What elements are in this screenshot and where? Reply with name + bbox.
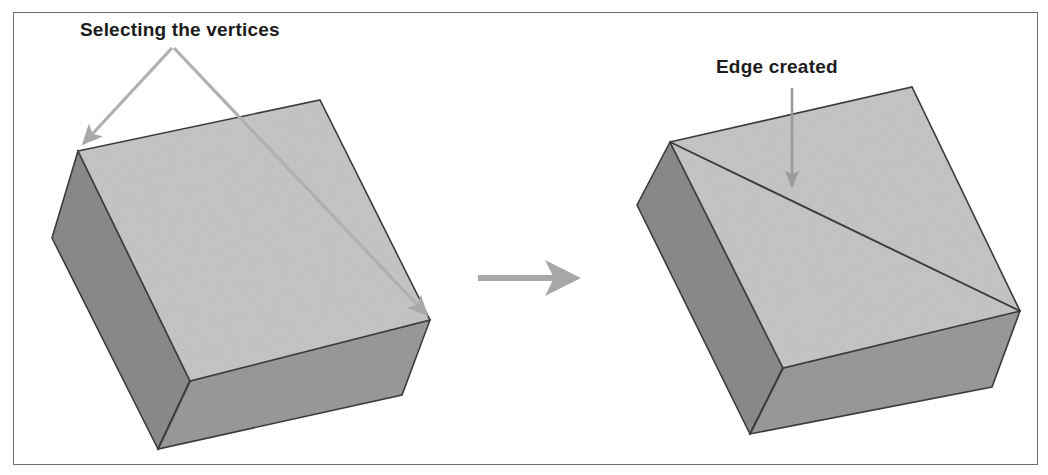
label-edge-created: Edge created <box>716 56 838 77</box>
figure-root: Selecting the vertices Edge created <box>0 0 1048 475</box>
label-selecting-the-vertices: Selecting the vertices <box>80 19 280 40</box>
box-before <box>52 100 430 449</box>
figure-canvas: Selecting the vertices Edge created <box>0 0 1048 475</box>
vertex-pointer-left-branch <box>84 48 172 143</box>
box-after <box>637 87 1020 434</box>
